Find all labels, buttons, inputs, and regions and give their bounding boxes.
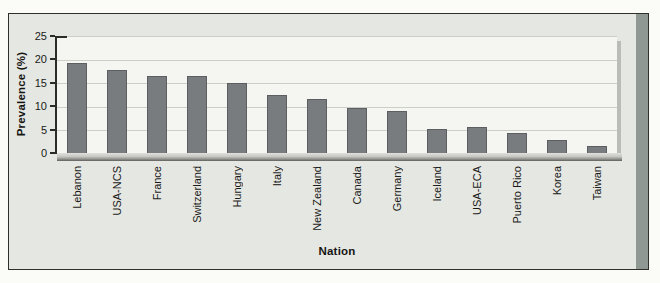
- bar-slot: [457, 37, 497, 153]
- x-label-slot: Canada: [337, 166, 377, 244]
- bar-slot: [337, 37, 377, 153]
- bar-usa-eca: [467, 127, 487, 153]
- bar-iceland: [427, 129, 447, 153]
- x-label-slot: Taiwan: [577, 166, 617, 244]
- bar-slot: [577, 37, 617, 153]
- bar-slot: [57, 37, 97, 153]
- x-label-slot: Hungary: [217, 166, 257, 244]
- bar-slot: [297, 37, 337, 153]
- x-axis-title: Nation: [57, 245, 617, 257]
- x-category-label: Canada: [351, 166, 364, 205]
- x-category-label: Lebanon: [71, 166, 84, 209]
- bar-germany: [387, 111, 407, 153]
- page-background: Prevalence (%) 0510152025 LebanonUSA-NCS…: [0, 0, 660, 283]
- x-category-label: Korea: [551, 166, 564, 195]
- x-label-slot: Lebanon: [57, 166, 97, 244]
- bar-slot: [257, 37, 297, 153]
- x-category-label: Iceland: [431, 166, 444, 201]
- x-label-slot: Korea: [537, 166, 577, 244]
- bar-slot: [97, 37, 137, 153]
- bar-switzerland: [187, 76, 207, 153]
- y-tick-label: 20: [21, 52, 47, 66]
- y-tick-label: 25: [21, 29, 47, 43]
- bar-slot: [497, 37, 537, 153]
- x-label-slot: USA-ECA: [457, 166, 497, 244]
- bar-korea: [547, 140, 567, 153]
- x-label-slot: France: [137, 166, 177, 244]
- bar-slot: [177, 37, 217, 153]
- y-tick-label: 10: [21, 99, 47, 113]
- x-category-label: Italy: [271, 166, 284, 186]
- x-category-label: Puerto Rico: [511, 166, 524, 223]
- x-axis-baseline: [57, 153, 622, 161]
- x-category-label: Germany: [391, 166, 404, 211]
- x-label-slot: New Zealand: [297, 166, 337, 244]
- x-label-slot: Puerto Rico: [497, 166, 537, 244]
- bar-new-zealand: [307, 99, 327, 153]
- bar-france: [147, 76, 167, 153]
- x-category-label: France: [151, 166, 164, 200]
- bar-slot: [377, 37, 417, 153]
- x-category-label: Switzerland: [191, 166, 204, 223]
- x-category-labels: LebanonUSA-NCSFranceSwitzerlandHungaryIt…: [57, 166, 617, 244]
- x-category-label: Taiwan: [591, 166, 604, 200]
- x-category-label: USA-ECA: [471, 166, 484, 215]
- y-tick-label: 0: [21, 146, 47, 160]
- bar-slot: [537, 37, 577, 153]
- bar-usa-ncs: [107, 70, 127, 153]
- plot-area: [57, 36, 617, 153]
- x-category-label: USA-NCS: [111, 166, 124, 216]
- x-label-slot: USA-NCS: [97, 166, 137, 244]
- x-label-slot: Germany: [377, 166, 417, 244]
- x-label-slot: Italy: [257, 166, 297, 244]
- x-label-slot: Iceland: [417, 166, 457, 244]
- bar-hungary: [227, 83, 247, 153]
- x-category-label: New Zealand: [311, 166, 324, 231]
- bar-lebanon: [67, 63, 87, 153]
- bars-row: [57, 37, 617, 153]
- y-tick-label: 15: [21, 76, 47, 90]
- y-tick-label: 5: [21, 123, 47, 137]
- figure-panel: Prevalence (%) 0510152025 LebanonUSA-NCS…: [8, 13, 649, 270]
- bar-slot: [137, 37, 177, 153]
- bar-italy: [267, 95, 287, 153]
- x-label-slot: Switzerland: [177, 166, 217, 244]
- bar-puerto-rico: [507, 133, 527, 153]
- bar-taiwan: [587, 146, 607, 153]
- x-category-label: Hungary: [231, 166, 244, 208]
- bar-slot: [417, 37, 457, 153]
- bar-slot: [217, 37, 257, 153]
- right-accent-band: [636, 14, 648, 269]
- bar-canada: [347, 108, 367, 153]
